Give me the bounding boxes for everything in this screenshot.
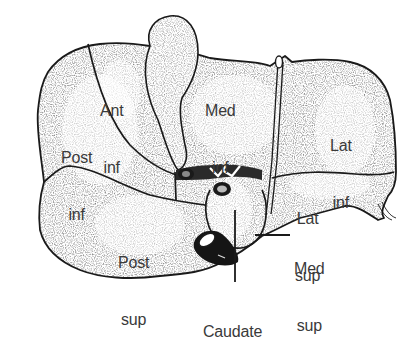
label-med-inf: Med inf (205, 63, 236, 196)
label-ant-inf: Ant inf (100, 63, 123, 196)
label-post-sup: Post sup (118, 215, 149, 341)
label-lat-inf: Lat inf (330, 98, 352, 231)
label-med-sup: Med sup (294, 221, 325, 341)
label-post-inf: Post inf (61, 110, 92, 243)
label-caudate: Caudate (203, 284, 262, 341)
